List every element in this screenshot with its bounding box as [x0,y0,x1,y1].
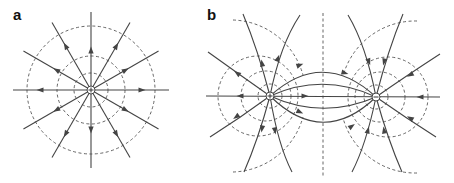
panel-b [206,13,440,178]
positive-charge-icon [266,92,274,100]
panel-b-equipotentials [218,13,428,178]
positive-charge-icon [87,86,95,94]
panel-b-arrows [232,54,424,135]
field-diagram [0,0,454,183]
panel-a [13,12,169,168]
negative-charge-icon [372,93,380,101]
